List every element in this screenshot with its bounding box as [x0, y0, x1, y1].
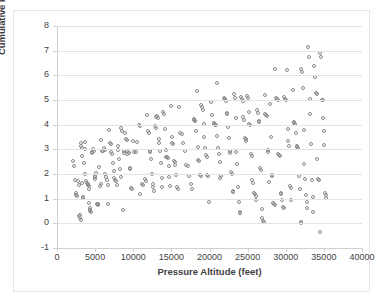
data-point — [260, 207, 264, 211]
data-point — [265, 114, 269, 118]
data-point — [177, 105, 181, 109]
y-axis-tick — [53, 51, 57, 52]
data-point — [119, 175, 123, 179]
data-point — [232, 92, 236, 96]
data-point — [286, 127, 290, 131]
data-point — [99, 138, 103, 142]
data-point — [302, 128, 306, 132]
data-point — [159, 161, 163, 165]
data-point — [309, 142, 313, 146]
data-point — [187, 174, 191, 178]
data-point — [291, 88, 295, 92]
data-point — [218, 160, 222, 164]
data-point — [112, 169, 116, 173]
gridline — [57, 223, 362, 224]
data-point — [190, 187, 194, 191]
data-point — [273, 203, 277, 207]
data-point — [123, 131, 127, 135]
data-point — [217, 152, 221, 156]
data-point — [171, 142, 175, 146]
y-axis-title: Cumulative Pressure Altitude Error (feet… — [0, 0, 7, 60]
data-point — [322, 129, 326, 133]
data-point — [117, 157, 121, 161]
data-point — [315, 157, 319, 161]
plot-wrapper: Cumulative Pressure Altitude Error (feet… — [0, 0, 389, 304]
y-axis-tick-label: 6 — [27, 70, 49, 79]
x-axis-tick-label: 40000 — [332, 252, 389, 263]
data-point — [244, 139, 248, 143]
data-point — [286, 139, 290, 143]
data-point — [305, 200, 309, 204]
gridline — [57, 174, 362, 175]
data-point — [206, 174, 210, 178]
data-point — [134, 150, 138, 154]
data-point — [75, 194, 79, 198]
y-axis-tick — [53, 100, 57, 101]
gridline — [57, 51, 362, 52]
data-point — [266, 150, 270, 154]
data-point — [194, 129, 198, 133]
data-point — [311, 210, 315, 214]
data-point — [301, 86, 305, 90]
data-point — [72, 164, 76, 168]
data-point — [322, 143, 326, 147]
data-point — [318, 230, 322, 234]
data-point — [278, 154, 282, 158]
data-point — [294, 131, 298, 135]
data-point — [300, 70, 304, 74]
data-point — [96, 202, 100, 206]
data-point — [157, 137, 161, 141]
data-point — [79, 218, 83, 222]
data-point — [256, 111, 260, 115]
data-point — [89, 210, 93, 214]
data-point — [302, 162, 306, 166]
y-axis-tick — [53, 26, 57, 27]
data-point — [238, 211, 242, 215]
data-point — [71, 159, 75, 163]
data-point — [144, 179, 148, 183]
y-axis-tick-label: -1 — [27, 243, 49, 252]
data-point — [273, 67, 277, 71]
data-point — [180, 132, 184, 136]
data-point — [149, 157, 153, 161]
data-point — [279, 192, 283, 196]
data-point — [181, 141, 185, 145]
data-point — [305, 206, 309, 210]
data-point — [215, 81, 219, 85]
data-point — [173, 163, 177, 167]
data-point — [167, 175, 171, 179]
data-point — [195, 89, 199, 93]
y-axis-tick — [53, 174, 57, 175]
x-axis-title: Pressure Altitude (feet) — [57, 266, 362, 277]
data-point — [298, 187, 302, 191]
data-point — [148, 150, 152, 154]
data-point — [282, 206, 286, 210]
y-axis-tick-label: 2 — [27, 169, 49, 178]
data-point — [156, 116, 160, 120]
data-point — [135, 140, 139, 144]
y-axis-tick-label: 1 — [27, 194, 49, 203]
data-point — [312, 64, 316, 68]
data-point — [82, 161, 86, 165]
data-point — [257, 120, 261, 124]
y-axis-tick — [53, 149, 57, 150]
data-point — [254, 194, 258, 198]
data-point — [250, 154, 254, 158]
data-point — [202, 135, 206, 139]
data-point — [154, 126, 158, 130]
data-point — [168, 184, 172, 188]
data-point — [231, 190, 235, 194]
gridline — [57, 125, 362, 126]
data-point — [157, 141, 161, 145]
data-point — [152, 189, 156, 193]
data-point — [87, 187, 91, 191]
data-point — [87, 201, 91, 205]
data-point — [105, 178, 109, 182]
gridline — [57, 100, 362, 101]
data-point — [197, 159, 201, 163]
data-point — [234, 150, 238, 154]
data-point — [169, 104, 173, 108]
data-point — [186, 164, 190, 168]
data-point — [259, 168, 263, 172]
data-point — [228, 151, 232, 155]
